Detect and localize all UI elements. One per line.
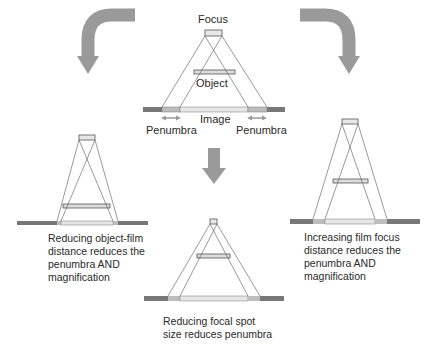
curved-arrow-right-icon	[300, 15, 360, 74]
curved-arrow-left-icon	[77, 15, 135, 74]
object-label: Object	[196, 77, 228, 90]
caption-line: size reduces penumbra	[163, 328, 272, 341]
down-arrow-icon	[202, 148, 226, 184]
penumbra-right-label: Penumbra	[236, 124, 287, 137]
right-caption: Increasing film focus distance reduces t…	[304, 231, 401, 283]
caption-line: penumbra AND	[304, 257, 401, 270]
caption-line: Reducing object-film	[48, 232, 145, 245]
caption-line: distance reduces the	[304, 244, 401, 257]
penumbra-left-label: Penumbra	[146, 124, 197, 137]
top-geometry	[143, 30, 285, 121]
left-geometry	[17, 135, 148, 225]
right-geometry	[290, 119, 420, 224]
caption-line: Reducing focal spot	[163, 315, 272, 328]
center-caption: Reducing focal spot size reduces penumbr…	[163, 315, 272, 341]
caption-line: Increasing film focus	[304, 231, 401, 244]
penumbra-diagram	[0, 0, 435, 355]
center-geometry	[144, 219, 284, 301]
left-caption: Reducing object-film distance reduces th…	[48, 232, 145, 284]
caption-line: magnification	[304, 270, 401, 283]
caption-line: distance reduces the	[48, 245, 145, 258]
focus-label: Focus	[198, 13, 228, 26]
caption-line: penumbra AND	[48, 258, 145, 271]
caption-line: magnification	[48, 271, 145, 284]
image-label: Image	[200, 113, 231, 126]
